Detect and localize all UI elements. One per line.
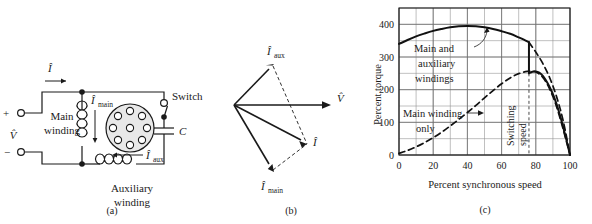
panel-phasor-diagram: V̂ Î aux Î Î main (b) [225,0,370,224]
annotation-main-only-arrowhead [478,110,484,115]
construction-line-main-to-total [273,144,307,170]
annotation-main-only-line2: only [416,123,435,134]
phasor-voltage-head [322,101,331,109]
annotation-main-aux-line1: Main and [414,43,455,54]
annotation-main-aux-line3: windings [415,73,454,84]
series-main-aux-dashed-extension [529,42,570,155]
rotor-bar [114,136,121,143]
terminal-minus-label: − [4,146,10,158]
annotation-main-only-line1: Main winding [403,108,463,119]
line-current-arrow-head [61,79,66,84]
chart-y-tick: 0 [389,150,394,161]
main-winding-label-line2: winding [44,124,81,136]
phasor-main-symbol: Î [260,180,266,192]
chart-x-tick: 100 [563,160,578,171]
switching-speed-label-line1: Switching [505,105,516,146]
phasor-aux-head [266,64,274,66]
phasor-aux-shaft [234,69,269,105]
capacitor-label: C [179,125,187,137]
rotor-bar [138,136,145,143]
circuit-svg: + − V̂ Î Main winding Î main [0,0,225,224]
rotor-bar-center [126,124,133,131]
phasor-aux-symbol: Î [266,45,272,57]
terminal-positive-node [18,110,25,117]
aux-winding-label-line2: winding [114,196,151,208]
panel-torque-speed-chart: 0100200300400 020406080100 Switching spe… [370,0,592,224]
main-winding-label-line1: Main [50,110,74,122]
chart-x-tick: 20 [428,160,438,171]
panel-tag-a: (a) [106,205,117,217]
rotor-bar [114,112,121,119]
rotor-bar [138,112,145,119]
chart-svg: 0100200300400 020406080100 Switching spe… [370,0,592,224]
chart-y-axis-title: Percent torque [372,64,383,125]
phasor-voltage-label: V̂ [337,92,345,104]
annotation-main-aux-leader [474,31,487,47]
terminal-negative-node [18,149,25,156]
phasor-main-subscript: main [268,186,283,195]
rotor-bar [126,107,133,114]
aux-current-subscript: aux [153,155,164,164]
series-after-switching [529,71,570,155]
switch-open-terminal[interactable] [161,100,168,107]
main-current-symbol: Î [90,94,96,106]
switching-speed-label-line2: speed [517,123,528,146]
chart-x-tick: 0 [397,160,402,171]
chart-y-tick: 400 [379,19,394,30]
terminal-plus-label: + [3,107,9,119]
aux-winding-label-line1: Auxiliary [111,182,154,194]
rotor-bar [143,124,150,131]
chart-x-tick-labels: 020406080100 [397,160,578,171]
series-main-and-auxiliary-windings [399,26,529,44]
main-current-arrow-head [93,138,98,143]
wire-bottom-left [25,152,82,164]
panel-tag-b: (b) [285,205,297,217]
phasor-total-label: Î [312,136,318,148]
chart-x-axis-title: Percent synchronous speed [428,179,542,190]
annotation-main-aux-line2: auxiliary [418,58,456,69]
line-current-label: Î [47,62,53,74]
chart-y-tick: 300 [379,52,394,63]
main-current-subscript: main [98,100,113,109]
supply-voltage-label: V̂ [10,129,18,141]
chart-x-tick: 60 [497,160,507,171]
chart-x-tick: 80 [531,160,541,171]
phasor-aux-subscript: aux [274,51,285,60]
rotor-bar [126,141,133,148]
switch-label: Switch [172,90,203,102]
chart-x-tick: 40 [462,160,472,171]
phasor-main-head [268,164,274,172]
panel-tag-c: (c) [479,204,490,216]
phasor-svg: V̂ Î aux Î Î main (b) [225,0,370,224]
panel-circuit-diagram: + − V̂ Î Main winding Î main [0,0,225,224]
rotor-bar [109,124,116,131]
aux-current-symbol: Î [145,149,151,161]
